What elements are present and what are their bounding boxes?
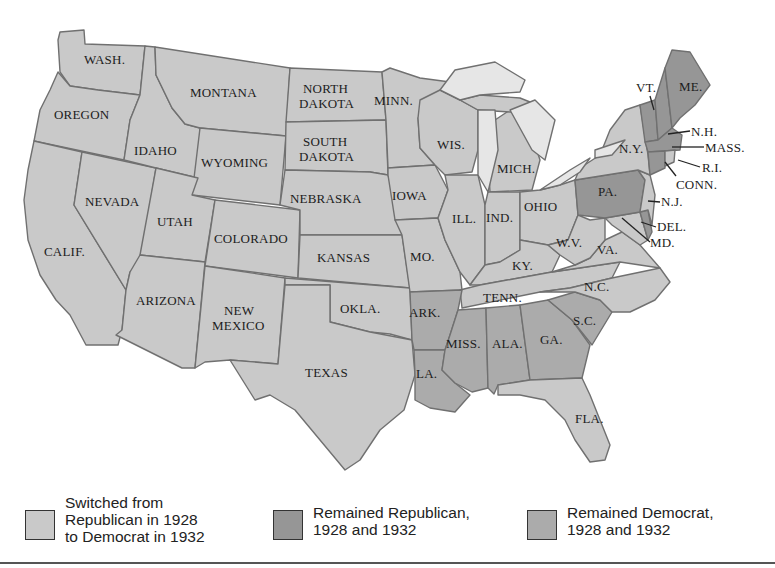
label-md: MD.	[650, 235, 675, 250]
map-legend: Switched from Republican in 1928 to Demo…	[0, 506, 775, 556]
label-south-dakota-2: DAKOTA	[299, 149, 354, 164]
label-kansas: KANSAS	[317, 250, 370, 265]
label-vt: VT.	[636, 80, 656, 95]
label-ill: ILL.	[452, 211, 476, 226]
label-minn: MINN.	[374, 93, 413, 108]
label-new-mexico-1: NEW	[224, 303, 255, 318]
bottom-divider	[0, 562, 775, 564]
label-mo: MO.	[410, 249, 435, 264]
label-texas: TEXAS	[305, 365, 348, 380]
state-conn	[648, 151, 665, 175]
label-nevada: NEVADA	[85, 194, 140, 209]
label-wash: WASH.	[84, 52, 125, 67]
legend-item-democrat: Remained Democrat, 1928 and 1932	[527, 506, 713, 540]
label-nh: N.H.	[691, 124, 717, 139]
label-new-mexico-2: MEXICO	[212, 318, 264, 333]
label-mass: MASS.	[705, 140, 745, 155]
label-north-dakota-2: DAKOTA	[299, 96, 354, 111]
label-me: ME.	[679, 79, 702, 94]
label-ind: IND.	[486, 210, 513, 225]
legend-swatch-switched	[25, 510, 55, 540]
label-del: DEL.	[657, 219, 686, 234]
label-montana: MONTANA	[190, 85, 257, 100]
us-election-map: WASH. OREGON CALIF. IDAHO NEVADA MONTANA…	[0, 0, 775, 480]
label-ala: ALA.	[492, 336, 523, 351]
legend-label-democrat: Remained Democrat, 1928 and 1932	[567, 504, 713, 538]
label-ri: R.I.	[702, 160, 722, 175]
label-pa: PA.	[598, 184, 617, 199]
label-idaho: IDAHO	[134, 143, 177, 158]
label-nj: N.J.	[661, 194, 683, 209]
label-wv: W.V.	[556, 235, 582, 250]
label-tenn: TENN.	[483, 290, 522, 305]
state-arizona	[116, 255, 205, 368]
label-wis: WIS.	[437, 137, 465, 152]
label-iowa: IOWA	[392, 188, 427, 203]
label-va: VA.	[597, 242, 618, 257]
label-ohio: OHIO	[524, 199, 557, 214]
legend-item-switched: Switched from Republican in 1928 to Demo…	[25, 506, 205, 545]
leader-ri	[678, 160, 700, 167]
legend-label-switched: Switched from Republican in 1928 to Demo…	[65, 494, 205, 545]
label-ark: ARK.	[409, 305, 441, 320]
label-colorado: COLORADO	[214, 231, 288, 246]
label-ky: KY.	[512, 258, 533, 273]
lake-superior	[440, 62, 525, 100]
label-north-dakota-1: NORTH	[303, 81, 348, 96]
label-calif: CALIF.	[44, 244, 85, 259]
label-wyoming: WYOMING	[201, 155, 268, 170]
legend-label-republican: Remained Republican, 1928 and 1932	[313, 504, 470, 538]
label-nebraska: NEBRASKA	[290, 191, 362, 206]
label-la: LA.	[416, 366, 437, 381]
label-fla: FLA.	[575, 411, 604, 426]
label-arizona: ARIZONA	[136, 293, 196, 308]
label-oregon: OREGON	[54, 107, 110, 122]
label-conn: CONN.	[676, 177, 717, 192]
legend-swatch-democrat	[527, 510, 557, 540]
label-ny: N.Y.	[619, 141, 643, 156]
legend-item-republican: Remained Republican, 1928 and 1932	[273, 506, 470, 540]
label-mich: MICH.	[497, 161, 535, 176]
label-utah: UTAH	[157, 214, 193, 229]
label-sc: S.C.	[573, 313, 596, 328]
label-ga: GA.	[540, 332, 563, 347]
label-miss: MISS.	[446, 336, 481, 351]
legend-swatch-republican	[273, 510, 303, 540]
label-south-dakota-1: SOUTH	[303, 134, 347, 149]
label-nc: N.C.	[584, 279, 609, 294]
label-okla: OKLA.	[340, 301, 380, 316]
